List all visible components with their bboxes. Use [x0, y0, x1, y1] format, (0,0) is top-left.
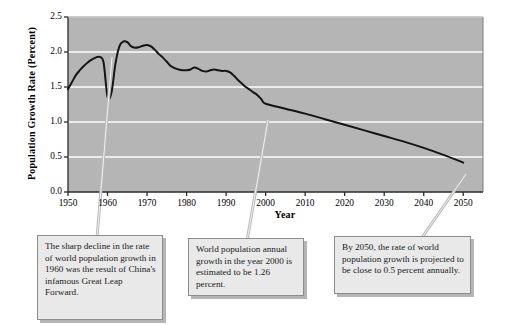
x-tick-label: 2050	[445, 198, 481, 208]
chart-figure: Population Growth Rate (Percent) Year 0.…	[0, 0, 511, 325]
annotation-year-2050-projection: By 2050, the rate of world population gr…	[334, 236, 471, 294]
x-axis-title: Year	[249, 209, 321, 220]
y-tick-label: 0.0	[36, 186, 62, 196]
x-tick-label: 2010	[287, 198, 323, 208]
y-tick-label: 2.0	[36, 46, 62, 56]
x-tick-label: 2020	[327, 198, 363, 208]
x-tick-label: 1990	[208, 198, 244, 208]
y-tick-label: 0.5	[36, 151, 62, 161]
x-tick-label: 1960	[90, 198, 126, 208]
annotation-year-2000-growth: World population annual growth in the ye…	[188, 238, 304, 296]
y-tick-label: 2.5	[36, 11, 62, 21]
x-tick-label: 1970	[129, 198, 165, 208]
annotation-great-leap-forward: The sharp decline in the rate of world p…	[37, 235, 163, 320]
x-tick-label: 1980	[169, 198, 205, 208]
y-tick-label: 1.5	[36, 81, 62, 91]
plot-background	[68, 17, 483, 192]
x-tick-label: 2040	[406, 198, 442, 208]
x-tick-label: 2000	[248, 198, 284, 208]
x-tick-label: 2030	[366, 198, 402, 208]
y-tick-label: 1.0	[36, 116, 62, 126]
y-axis-title: Population Growth Rate (Percent)	[26, 11, 37, 197]
x-tick-label: 1950	[50, 198, 86, 208]
